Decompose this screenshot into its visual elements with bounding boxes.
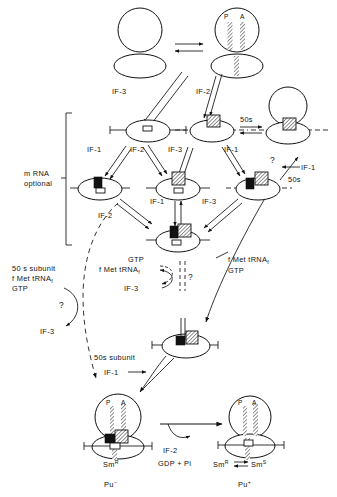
if3-label-top-left: IF-3 bbox=[112, 87, 126, 96]
site-a-label-top: A bbox=[240, 13, 245, 20]
right-block-line2: GTP bbox=[228, 266, 244, 275]
fifty-s-label-right: 50s bbox=[288, 175, 301, 184]
if3-label-row2-c: IF-3 bbox=[168, 145, 182, 154]
if1-label-row3-mid: IF-1 bbox=[150, 197, 164, 206]
site-a-label-bottom-left: A bbox=[121, 399, 126, 406]
site-p-label-bottom-right: P bbox=[238, 399, 243, 406]
if3-label-left: IF-3 bbox=[40, 327, 54, 336]
if2-label-row3-left: IF-2 bbox=[98, 211, 112, 220]
if2-label-bottom: IF-2 bbox=[163, 446, 177, 455]
if1-label-lower: IF-1 bbox=[104, 368, 118, 377]
if1-label-right: IF-1 bbox=[301, 163, 315, 172]
left-block-line2: f Met tRNAf bbox=[12, 274, 53, 284]
left-block-line3: GTP bbox=[12, 284, 28, 293]
gtp-label-center: GTP bbox=[128, 255, 144, 264]
if2-label-top-right: IF-2 bbox=[196, 87, 210, 96]
if1-label-row2-a: IF-1 bbox=[87, 145, 101, 154]
if3-label-row3-right: IF-3 bbox=[202, 197, 216, 206]
svg-text:f Met tRNAf: f Met tRNAf bbox=[228, 255, 269, 265]
fifty-s-subunit-label-lower: 50s subunit bbox=[94, 353, 135, 362]
if3-label-center: IF-3 bbox=[124, 284, 138, 293]
if2-label-row2-b: IF-2 bbox=[130, 145, 144, 154]
question-label-left: ? bbox=[59, 300, 64, 310]
site-p-label-bottom-left: P bbox=[106, 399, 111, 406]
node-70s-free bbox=[114, 8, 166, 78]
fmet-trna-label-center: f Met tRNAf bbox=[99, 265, 140, 275]
svg-text:f Met tRNAf: f Met tRNAf bbox=[12, 274, 53, 284]
translation-initiation-diagram: P A IF-3 IF-2 bbox=[0, 0, 337, 497]
node-70s-with-sites: P A bbox=[211, 8, 263, 78]
mrna-label-line1: m RNA bbox=[24, 169, 49, 178]
gdp-pi-label-bottom: GDP + Pi bbox=[158, 459, 191, 468]
question-label-right: ? bbox=[270, 155, 275, 165]
right-block-line1: f Met tRNAf bbox=[228, 255, 269, 265]
site-p-label-top: P bbox=[224, 13, 229, 20]
if1-label-row2-d: IF-1 bbox=[224, 145, 238, 154]
fifty-s-label-row2: 50s bbox=[240, 115, 253, 124]
svg-text:f Met tRNAf: f Met tRNAf bbox=[99, 265, 140, 275]
mrna-label-line2: optional bbox=[24, 179, 52, 188]
left-block-line1: 50 s subunit bbox=[12, 264, 55, 273]
question-label-center: ? bbox=[188, 272, 193, 282]
site-a-label-bottom-right: A bbox=[252, 399, 257, 406]
